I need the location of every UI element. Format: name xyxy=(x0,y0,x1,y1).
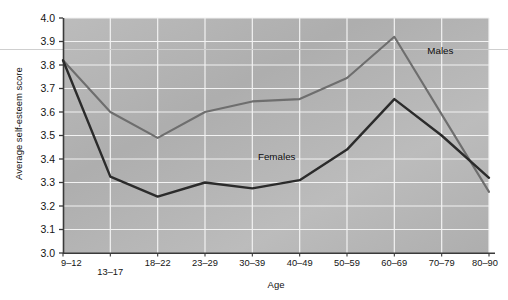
self-esteem-line-chart: 3.03.13.23.33.43.53.63.73.83.94.0 9–1213… xyxy=(0,0,508,300)
x-tick-label: 9–12 xyxy=(61,258,82,268)
chart-figure: 3.03.13.23.33.43.53.63.73.83.94.0 9–1213… xyxy=(0,0,508,300)
y-tick-label: 3.0 xyxy=(40,247,55,259)
y-tick-label: 3.6 xyxy=(40,106,55,118)
x-tick-label: 50–59 xyxy=(334,258,360,268)
y-tick-label: 3.9 xyxy=(40,35,55,47)
y-tick-label: 3.3 xyxy=(40,176,55,188)
y-tick-label: 3.8 xyxy=(40,59,55,71)
y-tick-label: 3.5 xyxy=(40,129,55,141)
x-tick-label: 40–49 xyxy=(287,258,313,268)
x-tick-label: 30–39 xyxy=(239,258,265,268)
y-tick-label: 3.4 xyxy=(40,153,55,165)
x-tick-label: 80–90 xyxy=(472,258,498,268)
x-tick-label: 13–17 xyxy=(97,267,123,277)
x-tick-label: 60–69 xyxy=(381,258,407,268)
y-axis-title: Average self-esteem score xyxy=(13,67,24,180)
x-tick-label: 70–79 xyxy=(429,258,455,268)
x-axis-title: Age xyxy=(268,279,285,290)
y-tick-label: 3.2 xyxy=(40,200,55,212)
y-tick-label: 3.7 xyxy=(40,82,55,94)
y-tick-label: 4.0 xyxy=(40,12,55,24)
x-tick-label: 18–22 xyxy=(145,258,171,268)
y-tick-label: 3.1 xyxy=(40,223,55,235)
x-tick-label: 23–29 xyxy=(192,258,218,268)
series-label-females: Females xyxy=(258,151,296,162)
series-label-males: Males xyxy=(427,45,453,56)
